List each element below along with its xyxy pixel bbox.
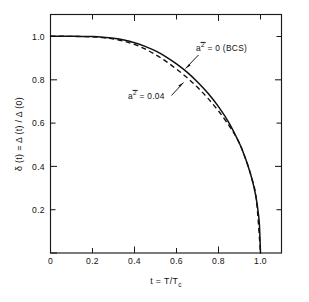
y-axis-ticks: [51, 37, 58, 254]
x-tick-label: 0.2: [86, 256, 99, 266]
x-tick-labels: 0 0.2 0.4 0.6 0.8 1.0: [48, 256, 267, 266]
y-tick-labels: 0.2 0.4 0.6 0.8 1.0: [32, 32, 45, 215]
annot-a004-arrowhead: [178, 83, 183, 88]
curve-bcs: [51, 36, 261, 253]
annot-a004-rest: = 0.04: [139, 91, 164, 101]
annot-bcs-rest: = 0 (BCS): [207, 43, 247, 53]
gap-ratio-chart: 0 0.2 0.4 0.6 0.8 1.0 0.2 0.4 0.6 0.8 1.…: [0, 0, 309, 302]
y-tick-label: 0.4: [32, 162, 45, 172]
annotation-a004: a2 = 0.04: [128, 83, 184, 102]
x-tick-label: 0.6: [170, 256, 183, 266]
x-tick-label: 1.0: [254, 256, 267, 266]
y-axis-title: δ (t) = Δ (t) / Δ (0): [14, 97, 24, 171]
y-tick-label: 1.0: [32, 32, 45, 42]
annotation-bcs: a2 = 0 (BCS): [186, 41, 248, 69]
x-axis-title-sub: c: [178, 281, 182, 288]
x-tick-label: 0.4: [128, 256, 141, 266]
x-axis-title: t = T/Tc: [150, 276, 182, 288]
x-axis-title-main: t = T/T: [150, 276, 178, 286]
curve-a2-004: [51, 36, 261, 253]
x-axis-ticks: [51, 247, 261, 254]
y-tick-label: 0.2: [32, 205, 45, 215]
x-axis-ticks-top: [93, 15, 261, 22]
x-tick-label: 0.8: [212, 256, 225, 266]
y-axis-ticks-right: [275, 37, 282, 210]
y-tick-label: 0.6: [32, 118, 45, 128]
figure-panel: 0 0.2 0.4 0.6 0.8 1.0 0.2 0.4 0.6 0.8 1.…: [0, 0, 309, 302]
y-tick-label: 0.8: [32, 75, 45, 85]
x-tick-label: 0: [48, 256, 53, 266]
